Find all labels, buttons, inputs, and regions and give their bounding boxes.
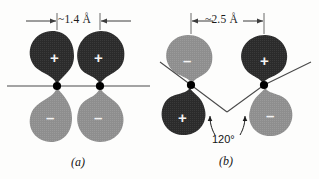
panel-a-nucleus-right <box>96 82 104 90</box>
panel-a-sign-lower-left: – <box>46 110 54 125</box>
panel-b-sign-upper-right: + <box>260 53 269 68</box>
panel-a-graphics <box>7 13 150 142</box>
panel-b-nucleus-left <box>187 81 195 89</box>
panel-a-sign-upper-right: + <box>94 50 103 65</box>
panel-b-sign-upper-left: – <box>183 53 191 68</box>
panel-a-dimension-label: ~1.4 Å <box>58 13 91 25</box>
panel-b-caption: (b) <box>219 154 233 169</box>
panel-b-sign-lower-right: – <box>266 108 274 123</box>
panel-b-angle-label: 120° <box>212 133 235 145</box>
panel-a-sign-upper-left: + <box>50 50 59 65</box>
panel-b-dimension-label: ~2.5 Å <box>205 13 238 25</box>
panel-a-sign-lower-right: – <box>94 110 102 125</box>
panel-a-caption: (a) <box>71 155 85 170</box>
figure-canvas <box>0 0 319 179</box>
panel-b-sign-lower-left: + <box>178 110 187 125</box>
panel-b-angle-arrow-right <box>240 116 245 135</box>
panel-b-nucleus-right <box>260 81 268 89</box>
orbital-overlap-figure: ~1.4 Å + + – – (a) ~2.5 Å – + + – 120° (… <box>0 0 319 179</box>
panel-a-nucleus-left <box>53 82 61 90</box>
